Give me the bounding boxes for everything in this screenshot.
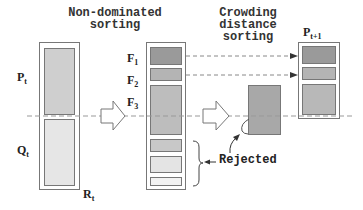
f2-arrowhead-icon	[290, 72, 298, 78]
rejected-brace-arrowhead-icon	[204, 160, 210, 165]
f1-arrowhead-icon	[290, 53, 298, 59]
crowding-arrow-icon	[203, 101, 229, 130]
truncation-curve	[242, 119, 249, 134]
connectors-overlay	[0, 0, 363, 210]
rejected-brace	[193, 141, 203, 186]
rejected-pointer-line	[230, 138, 236, 153]
nondominated-arrow-icon	[101, 101, 125, 130]
